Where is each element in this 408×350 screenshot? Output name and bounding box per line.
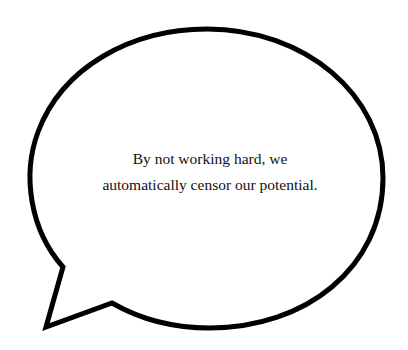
speech-bubble-line-2: automatically censor our potential.: [60, 172, 360, 198]
speech-bubble-line-1: By not working hard, we: [60, 146, 360, 172]
speech-bubble-text: By not working hard, we automatically ce…: [60, 146, 360, 198]
